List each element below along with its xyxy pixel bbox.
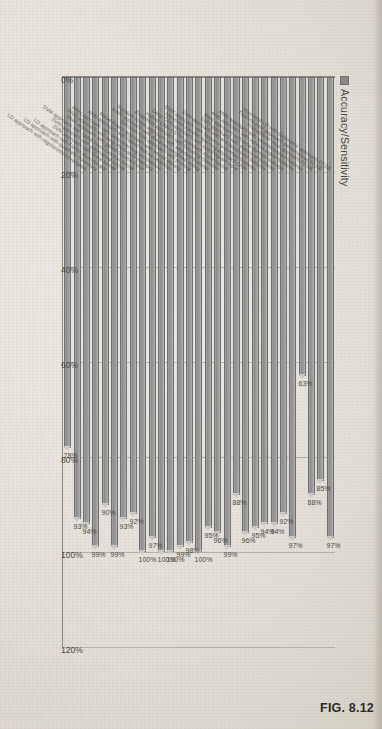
x-tick-40: 40%: [61, 265, 78, 275]
bar-value-label: 88%: [308, 498, 322, 505]
bar-value-label: 96%: [242, 536, 256, 543]
bar-value-label: 93%: [120, 522, 134, 529]
x-tick-120: 120%: [61, 645, 83, 655]
bar-value-label: 100%: [157, 555, 175, 562]
x-tick-100: 100%: [61, 550, 83, 560]
page-edge-shadow: [372, 0, 382, 729]
x-tick-20: 20%: [61, 170, 78, 180]
rotated-figure-stage: Accuracy/Sensitivity 97%85%88%63%97%92%9…: [25, 20, 357, 710]
x-tick-60: 60%: [61, 360, 78, 370]
bar-row: 97%: [327, 77, 334, 647]
bar-value-label: 100%: [195, 555, 213, 562]
bar: [308, 77, 315, 495]
bar-value-label: 99%: [92, 550, 106, 557]
x-axis-tick-labels: 0%20%40%60%80%100%120%: [37, 76, 61, 646]
paper-page: Accuracy/Sensitivity 97%85%88%63%97%92%9…: [0, 0, 382, 729]
bar-chart-figure: Accuracy/Sensitivity 97%85%88%63%97%92%9…: [25, 20, 357, 710]
bar-value-label: 63%: [298, 379, 312, 386]
legend-swatch-icon: [341, 76, 350, 85]
bar: [299, 77, 306, 376]
category-axis-labels: Improved LD with Geometric approach FCSE…: [63, 20, 335, 76]
x-tick-80: 80%: [61, 455, 78, 465]
bar-value-label: 97%: [148, 541, 162, 548]
bar-value-label: 90%: [101, 508, 115, 515]
bar-value-label: 99%: [223, 550, 237, 557]
bar-value-label: 97%: [289, 541, 303, 548]
bar: [317, 77, 324, 481]
bar-value-label: 85%: [317, 484, 331, 491]
bar: [327, 77, 334, 538]
figure-caption: FIG. 8.12: [320, 701, 374, 715]
bar-value-label: 95%: [204, 531, 218, 538]
bar-value-label: 92%: [279, 517, 293, 524]
bar-value-label: 99%: [111, 550, 125, 557]
bar-value-label: 97%: [326, 541, 340, 548]
bar-value-label: 88%: [233, 498, 247, 505]
chart-legend: Accuracy/Sensitivity: [339, 76, 351, 186]
legend-label: Accuracy/Sensitivity: [339, 89, 351, 186]
bar-value-label: 100%: [139, 555, 157, 562]
bar-value-label: 93%: [73, 522, 87, 529]
